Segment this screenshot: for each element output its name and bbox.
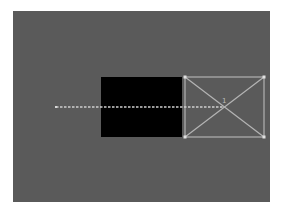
guide-start-point[interactable] xyxy=(55,106,57,108)
scene-overlay: 1 xyxy=(0,0,283,213)
resize-handle-top-left[interactable] xyxy=(184,76,187,79)
placeholder-box[interactable]: 1 xyxy=(184,76,266,139)
placeholder-label: 1 xyxy=(222,97,226,105)
resize-handle-bottom-left[interactable] xyxy=(184,136,187,139)
resize-handle-bottom-right[interactable] xyxy=(263,136,266,139)
resize-handle-top-right[interactable] xyxy=(263,76,266,79)
